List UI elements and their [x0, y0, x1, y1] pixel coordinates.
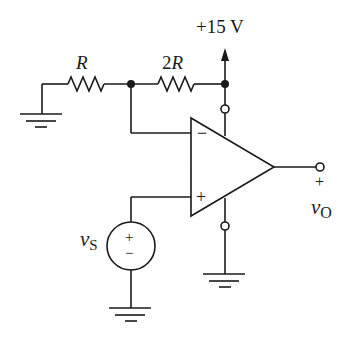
supply-label: +15 V — [196, 16, 244, 37]
terminal-supply-top — [221, 105, 229, 113]
ground-symbol-opamp — [203, 274, 245, 287]
opamp-plus-symbol: + — [196, 187, 206, 207]
output-label: vO — [311, 195, 332, 221]
resistor-r-label: R — [75, 52, 88, 73]
node-dot-supply — [221, 80, 229, 88]
output-plus-symbol: + — [315, 173, 324, 190]
ground-symbol-left — [20, 84, 62, 127]
circuit-schematic: +15 V R 2R − + + − vS + vO — [0, 0, 350, 337]
resistor-2r — [158, 77, 194, 91]
resistor-2r-label: 2R — [162, 52, 184, 73]
circuit-diagram: +15 V R 2R − + + − vS + vO — [0, 0, 350, 337]
source-minus-symbol: − — [125, 245, 133, 261]
resistor-r — [68, 77, 104, 91]
ground-symbol-source — [109, 308, 151, 321]
source-plus-symbol: + — [125, 229, 133, 245]
opamp-minus-symbol: − — [197, 123, 207, 143]
terminal-output — [316, 163, 324, 171]
arrow-up-icon — [221, 48, 229, 61]
source-label: vS — [80, 227, 98, 253]
terminal-supply-bottom — [221, 222, 229, 230]
node-dot-feedback — [127, 80, 135, 88]
